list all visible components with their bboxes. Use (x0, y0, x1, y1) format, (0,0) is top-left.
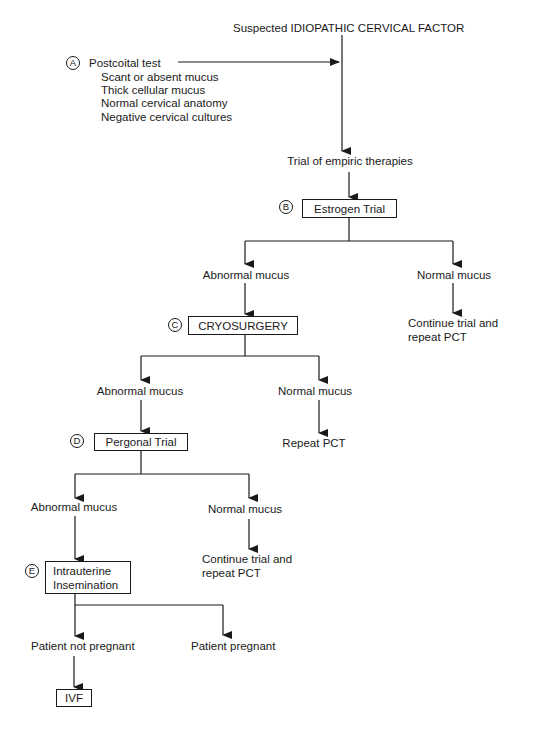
pergonal-normal-outcome: Continue trial and repeat PCT (202, 552, 292, 580)
cryosurgery-box: CRYOSURGERY (188, 316, 298, 335)
marker-a-icon: A (66, 56, 80, 70)
ivf-box: IVF (56, 689, 92, 707)
cryo-normal-outcome: Repeat PCT (282, 436, 345, 450)
intrauterine-insemination-box: Intrauterine Insemination (45, 561, 131, 594)
estrogen-abnormal-mucus: Abnormal mucus (203, 268, 289, 282)
postcoital-finding: Negative cervical cultures (101, 110, 232, 124)
pergonal-trial-box: Pergonal Trial (94, 433, 188, 451)
estrogen-normal-outcome: Continue trial and repeat PCT (408, 316, 498, 344)
marker-b-icon: B (279, 200, 293, 214)
marker-d-icon: D (70, 434, 84, 448)
outcome-line: Continue trial and (202, 552, 292, 566)
cryo-normal-mucus: Normal mucus (278, 384, 352, 398)
estrogen-normal-mucus: Normal mucus (417, 268, 491, 282)
marker-c-icon: C (168, 318, 182, 332)
pergonal-normal-mucus: Normal mucus (208, 502, 282, 516)
estrogen-trial-box: Estrogen Trial (302, 199, 397, 218)
postcoital-finding: Normal cervical anatomy (101, 96, 228, 110)
outcome-line: Continue trial and (408, 316, 498, 330)
trial-empiric-therapies: Trial of empiric therapies (287, 154, 412, 168)
postcoital-test-label: Postcoital test (89, 56, 161, 70)
outcome-line: repeat PCT (408, 330, 498, 344)
box-line: Intrauterine (53, 564, 111, 578)
patient-not-pregnant: Patient not pregnant (31, 639, 135, 653)
postcoital-finding: Scant or absent mucus (101, 70, 219, 84)
flowchart-connectors (0, 0, 534, 740)
outcome-line: repeat PCT (202, 566, 292, 580)
box-line: Insemination (53, 578, 118, 592)
patient-pregnant: Patient pregnant (191, 639, 275, 653)
cryo-abnormal-mucus: Abnormal mucus (97, 384, 183, 398)
diagram-title: Suspected IDIOPATHIC CERVICAL FACTOR (233, 21, 464, 35)
pergonal-abnormal-mucus: Abnormal mucus (31, 500, 117, 514)
postcoital-finding: Thick cellular mucus (101, 83, 205, 97)
marker-e-icon: E (25, 564, 39, 578)
